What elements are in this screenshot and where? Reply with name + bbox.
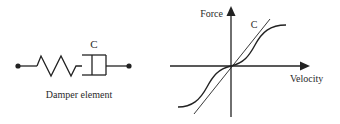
- damper-element-diagram: [15, 55, 131, 76]
- y-axis-arrow-icon: [227, 6, 236, 16]
- figure: C Damper element Force Velocity C: [0, 0, 340, 124]
- spring-zigzag: [37, 56, 82, 76]
- damper-caption: Damper element: [46, 89, 113, 100]
- line-coefficient-label: C: [251, 19, 258, 30]
- x-axis-label: Velocity: [290, 73, 323, 84]
- y-axis-label: Force: [200, 8, 223, 19]
- damper-coefficient-label: C: [90, 38, 97, 50]
- force-velocity-graph: [170, 6, 310, 117]
- right-terminal-dot: [126, 63, 131, 68]
- x-axis-arrow-icon: [300, 62, 310, 71]
